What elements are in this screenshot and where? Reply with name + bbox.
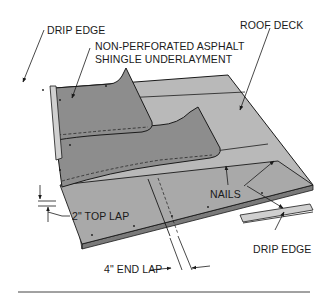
label-underlayment-line2: SHINGLE UNDERLAYMENT [95,53,232,66]
label-end-lap: 4" END LAP [104,263,162,276]
label-roof-deck: ROOF DECK [240,19,303,32]
label-nails: NAILS [210,188,241,201]
label-drip-edge-top: DRIP EDGE [47,24,105,37]
underlayment-diagram: DRIP EDGE NON-PERFORATED ASPHALT SHINGLE… [0,0,325,295]
label-drip-edge-bottom: DRIP EDGE [253,243,311,256]
label-underlayment-line1: NON-PERFORATED ASPHALT [95,40,244,53]
label-top-lap: 2" TOP LAP [72,210,129,223]
drip-edge-bottom [240,204,313,223]
